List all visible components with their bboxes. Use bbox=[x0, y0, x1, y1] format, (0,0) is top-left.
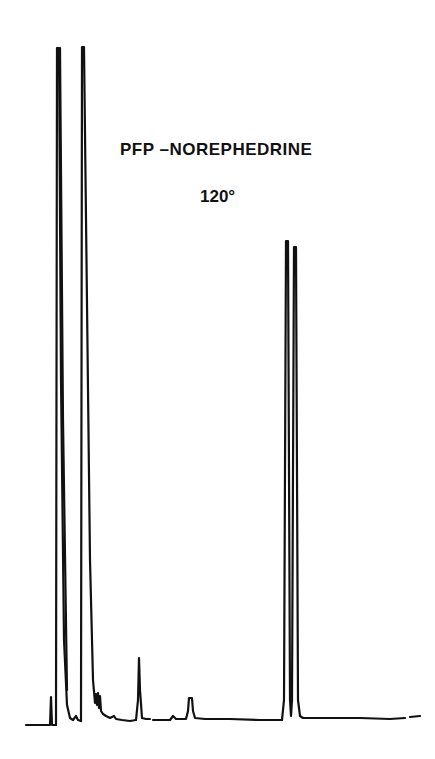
chart-subtitle-temperature: 120° bbox=[200, 187, 235, 207]
chromatogram-plot bbox=[0, 0, 435, 759]
chart-title: PFP –NOREPHEDRINE bbox=[120, 140, 312, 160]
